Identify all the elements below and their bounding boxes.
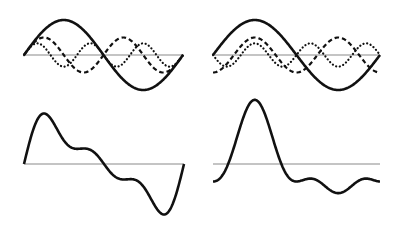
fourier-synthesis-figure: [0, 0, 406, 237]
background: [0, 0, 406, 237]
figure-canvas: [0, 0, 406, 237]
